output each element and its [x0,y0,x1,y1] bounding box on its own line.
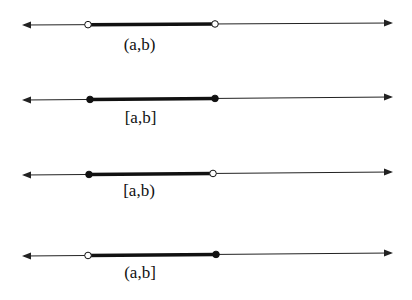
left-arrow-icon [22,97,31,104]
interval-label-closed: [a,b] [125,109,157,126]
left-arrow-icon [22,172,31,179]
interval-segment [88,24,215,25]
closed-endpoint-b-icon [213,251,220,258]
right-arrow-icon [384,250,393,257]
right-arrow-icon [384,20,393,27]
interval-label-half-open-left: (a,b] [124,264,156,281]
open-endpoint-b-icon [212,21,219,28]
closed-endpoint-a-icon [87,96,94,103]
open-endpoint-b-icon [210,170,217,177]
interval-label-open: (a,b) [124,36,156,53]
interval-segment [90,98,215,99]
interval-segment [88,254,216,255]
interval-label-half-open-right: [a,b) [123,182,155,199]
open-endpoint-a-icon [85,21,92,28]
open-endpoint-a-icon [85,252,92,259]
right-arrow-icon [384,169,393,176]
number-lines [0,0,412,300]
left-arrow-icon [22,22,31,29]
right-arrow-icon [384,94,393,101]
interval-notation-diagram: (a,b) [a,b] [a,b) (a,b] [0,0,412,300]
left-arrow-icon [22,253,31,260]
closed-endpoint-b-icon [212,95,219,102]
interval-segment [89,173,213,174]
closed-endpoint-a-icon [86,171,93,178]
